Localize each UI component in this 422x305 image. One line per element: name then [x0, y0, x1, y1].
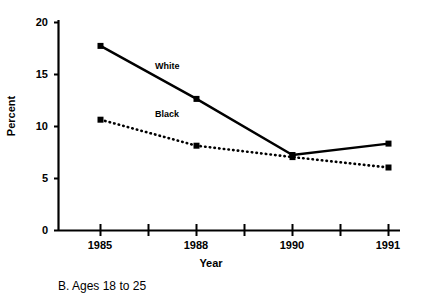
x-tick-label-1990: 1990 — [269, 240, 315, 251]
series-line-white — [101, 46, 389, 155]
y-axis-title: Percent — [5, 86, 17, 146]
y-tick-label-0: 0 — [22, 225, 48, 236]
y-tick-label-15: 15 — [22, 69, 48, 80]
y-tick-label-10: 10 — [22, 121, 48, 132]
x-tick-label-1988: 1988 — [173, 240, 219, 251]
figure-caption: B. Ages 18 to 25 — [58, 279, 146, 293]
x-tick-label-1985: 1985 — [77, 240, 123, 251]
x-axis-title: Year — [0, 257, 422, 269]
series-label-black: Black — [155, 110, 179, 119]
series-markers-white — [98, 43, 392, 158]
y-tick-label-5: 5 — [22, 173, 48, 184]
y-tick-label-20: 20 — [22, 17, 48, 28]
series-label-white: White — [155, 62, 180, 71]
chart-figure: 20 15 10 5 0 Percent 1985 1988 1990 1991… — [0, 0, 422, 305]
x-tick-label-1991: 1991 — [365, 240, 411, 251]
series-markers-black — [98, 117, 392, 171]
